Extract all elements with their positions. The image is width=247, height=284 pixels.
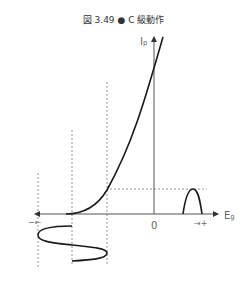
plate-current-pulse bbox=[183, 189, 202, 214]
x-axis-left-arrow bbox=[34, 211, 40, 217]
grid-input-sine-wave bbox=[38, 226, 107, 261]
class-c-operation-diagram bbox=[0, 0, 247, 284]
ip-eg-characteristic-curve bbox=[66, 37, 163, 214]
origin-label: 0 bbox=[151, 220, 157, 231]
x-axis-label: Eg bbox=[224, 210, 235, 221]
negative-direction-label: −← bbox=[28, 218, 41, 227]
positive-direction-label: →+ bbox=[194, 219, 207, 228]
y-axis-label: Ip bbox=[140, 36, 147, 47]
